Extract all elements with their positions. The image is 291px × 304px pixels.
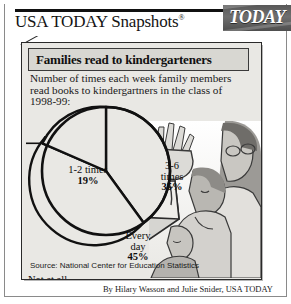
usa-today-logo-text: TODAY bbox=[223, 7, 291, 28]
masthead-title-text: USA TODAY Snapshots bbox=[15, 12, 178, 31]
pie-label-1-2-times-value: 19% bbox=[57, 176, 119, 187]
usa-today-logo: TODAY bbox=[223, 5, 291, 31]
masthead-title: USA TODAY Snapshots® bbox=[15, 12, 184, 32]
chart-credit: By Hilary Wasson and Julie Snider, USA T… bbox=[0, 284, 281, 294]
pie-label-not-at-all: Not at all 1% bbox=[28, 275, 98, 280]
frame-bottom-rule bbox=[4, 296, 287, 297]
pie-label-every-day-category-line1: Every bbox=[110, 231, 166, 242]
pie-label-1-2-times-category: 1-2 times bbox=[57, 165, 119, 176]
usa-today-snapshot: USA TODAY Snapshots® TODAY Families read… bbox=[0, 0, 291, 304]
frame-left-rule bbox=[4, 4, 5, 296]
masthead: USA TODAY Snapshots® TODAY bbox=[5, 5, 286, 33]
chart-source: Source: National Center for Education St… bbox=[30, 261, 199, 270]
pie-label-3-6-times-category-line1: 3-6 bbox=[152, 161, 192, 172]
chart-title: Families read to kindergarteners bbox=[36, 52, 212, 68]
chart-title-box: Families read to kindergarteners bbox=[28, 48, 249, 71]
chart-panel: Families read to kindergarteners Number … bbox=[21, 42, 262, 280]
frame-right-rule bbox=[286, 4, 287, 296]
pie-label-3-6-times-value: 35% bbox=[152, 182, 192, 193]
registered-trademark-icon: ® bbox=[178, 13, 184, 22]
pie-label-3-6-times: 3-6 times 35% bbox=[152, 161, 192, 193]
pie-label-every-day: Every day 45% bbox=[110, 231, 166, 263]
pie-label-1-2-times: 1-2 times 19% bbox=[57, 165, 119, 186]
pie-label-not-at-all-category: Not at all bbox=[28, 275, 98, 280]
